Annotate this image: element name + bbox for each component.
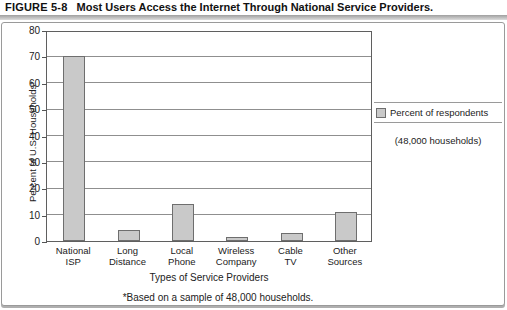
bar-wireless-company	[226, 237, 248, 241]
figure-number-label: FIGURE 5-8	[5, 1, 68, 13]
y-tick-mark-20	[42, 189, 47, 190]
bar-long-distance	[118, 230, 140, 241]
y-tick-mark-80	[42, 31, 47, 32]
y-tick-label-60: 60	[14, 79, 40, 89]
y-tick-mark-40	[42, 137, 47, 138]
x-axis-title: Types of Service Providers	[46, 272, 372, 283]
gridline-70	[47, 56, 371, 57]
chart-footnote: *Based on a sample of 48,000 households.	[2, 292, 434, 303]
x-category-label-national-isp: NationalISP	[43, 245, 103, 267]
gridline-60	[47, 82, 371, 83]
y-tick-mark-70	[42, 57, 47, 58]
x-category-label-long-distance: LongDistance	[97, 245, 157, 267]
x-category-label-wireless-company: WirelessCompany	[206, 245, 266, 267]
y-tick-label-30: 30	[14, 158, 40, 168]
plot-area	[46, 31, 372, 242]
gridline-50	[47, 109, 371, 110]
bar-other-sources	[335, 212, 357, 241]
legend-label: Percent of respondents	[390, 107, 488, 118]
gridline-10	[47, 214, 371, 215]
gridline-20	[47, 188, 371, 189]
y-tick-label-50: 50	[14, 105, 40, 115]
y-tick-mark-50	[42, 110, 47, 111]
y-tick-label-40: 40	[14, 132, 40, 142]
y-tick-label-80: 80	[14, 26, 40, 36]
title-bar-shadow	[0, 15, 507, 20]
bar-national-isp	[63, 56, 85, 241]
y-tick-label-0: 0	[14, 237, 40, 247]
legend-sublabel: (48,000 households)	[374, 135, 502, 146]
y-tick-label-20: 20	[14, 184, 40, 194]
legend-swatch-icon	[376, 108, 386, 118]
y-tick-label-70: 70	[14, 52, 40, 62]
figure-box: Percent of U.S. Households* 010203040506…	[1, 22, 505, 306]
x-category-label-other-sources: OtherSources	[315, 245, 375, 267]
y-tick-label-10: 10	[14, 211, 40, 221]
bar-cable-tv	[281, 233, 303, 241]
bar-local-phone	[172, 204, 194, 241]
y-tick-mark-0	[42, 242, 47, 243]
figure-title: Most Users Access the Internet Through N…	[77, 1, 434, 13]
figure-title-bar: FIGURE 5-8Most Users Access the Internet…	[0, 0, 507, 15]
y-tick-mark-30	[42, 163, 47, 164]
x-category-label-local-phone: LocalPhone	[152, 245, 212, 267]
gridline-40	[47, 135, 371, 136]
y-tick-mark-60	[42, 84, 47, 85]
gridline-30	[47, 161, 371, 162]
legend: Percent of respondents	[374, 102, 502, 123]
x-category-label-cable-tv: CableTV	[260, 245, 320, 267]
y-tick-mark-10	[42, 216, 47, 217]
